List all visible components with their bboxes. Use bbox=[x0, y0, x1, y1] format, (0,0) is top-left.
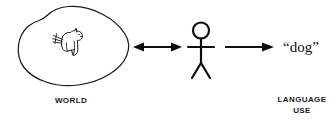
world-person-arrow-head-left bbox=[133, 43, 144, 52]
person-language-arrow-head bbox=[262, 43, 274, 52]
stick-figure-person[interactable] bbox=[188, 23, 214, 79]
language-caption-line2: USE bbox=[293, 106, 311, 115]
person-language-arrow[interactable] bbox=[225, 43, 274, 52]
world-person-arrow[interactable] bbox=[133, 43, 182, 52]
stick-figure-leg-right bbox=[201, 63, 210, 78]
language-token: “dog” bbox=[283, 39, 319, 55]
world-caption: WORLD bbox=[55, 96, 87, 105]
dog-paw-line bbox=[72, 50, 75, 51]
world-person-arrow-head-right bbox=[171, 43, 182, 52]
world-blob-group[interactable] bbox=[18, 6, 128, 85]
stick-figure-head bbox=[193, 23, 209, 39]
dog-ear-line bbox=[76, 29, 77, 32]
language-caption-line1: LANGUAGE bbox=[278, 95, 327, 104]
diagram-illustration: WORLD “dog” LANGUAGE USE bbox=[0, 0, 336, 123]
stick-figure-leg-left bbox=[192, 63, 201, 78]
diagram-canvas: WORLD “dog” LANGUAGE USE bbox=[0, 0, 336, 123]
